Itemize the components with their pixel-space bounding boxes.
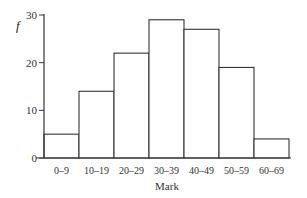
y-ticks: 0102030 xyxy=(26,9,44,164)
bar-30–39 xyxy=(149,20,184,158)
histogram-chart: 0102030 0–910–1920–2930–3940–4950–5960–6… xyxy=(0,0,307,198)
x-axis-label: Mark xyxy=(155,180,179,192)
y-tick-label: 30 xyxy=(26,9,38,21)
y-tick-label: 10 xyxy=(26,104,38,116)
bar-40–49 xyxy=(184,29,219,158)
y-tick-label: 20 xyxy=(26,57,38,69)
x-tick-label: 10–19 xyxy=(84,165,109,176)
y-axis-label: f xyxy=(16,18,22,33)
bar-10–19 xyxy=(79,91,114,158)
x-tick-label: 60–69 xyxy=(259,165,284,176)
bar-50–59 xyxy=(219,67,254,158)
x-tick-label: 40–49 xyxy=(189,165,214,176)
y-tick-label: 0 xyxy=(32,152,38,164)
x-tick-label: 20–29 xyxy=(119,165,144,176)
bars xyxy=(44,20,289,158)
bar-20–29 xyxy=(114,53,149,158)
x-tick-label: 30–39 xyxy=(154,165,179,176)
x-tick-labels: 0–910–1920–2930–3940–4950–5960–69 xyxy=(54,165,284,176)
bar-0–9 xyxy=(44,134,79,158)
bar-60–69 xyxy=(254,139,289,158)
x-tick-label: 50–59 xyxy=(224,165,249,176)
x-tick-label: 0–9 xyxy=(54,165,69,176)
